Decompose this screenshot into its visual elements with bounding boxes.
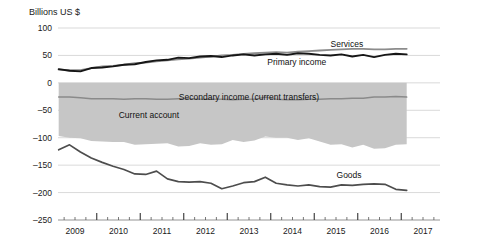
y-tick-label: –200 <box>33 188 52 198</box>
y-tick-label: –50 <box>38 105 52 115</box>
x-tick-label: 2011 <box>153 226 172 236</box>
y-axis-title: Billions US $ <box>29 7 80 17</box>
primary-income-line <box>59 53 407 71</box>
goods-line <box>59 145 407 191</box>
x-tick-label: 2017 <box>414 226 433 236</box>
y-axis-title-group: Billions US $ <box>29 7 80 17</box>
series-annotation-label: Secondary income (current transfers) <box>179 92 319 102</box>
y-tick-label: –250 <box>33 215 52 225</box>
x-tick-label: 2013 <box>240 226 259 236</box>
balance-of-payments-chart: Billions US $ 100500–50–100–150–200–250 … <box>0 0 479 252</box>
y-tick-label: 0 <box>47 78 52 88</box>
chart-container: Billions US $ 100500–50–100–150–200–250 … <box>0 0 479 252</box>
x-ticks-group <box>64 213 434 220</box>
x-tick-label: 2012 <box>196 226 215 236</box>
y-tick-labels-group: 100500–50–100–150–200–250 <box>33 23 52 225</box>
y-tick-label: –100 <box>33 133 52 143</box>
series-annotation-label: Services <box>331 39 364 49</box>
y-tick-label: 50 <box>43 50 53 60</box>
series-annotation-label: Goods <box>337 170 362 180</box>
y-tick-label: –150 <box>33 160 52 170</box>
x-tick-labels-group: 200920102011201220132014201520162017 <box>66 226 433 236</box>
x-tick-label: 2009 <box>66 226 85 236</box>
x-tick-label: 2015 <box>327 226 346 236</box>
series-annotation-label: Current account <box>119 110 180 120</box>
x-tick-label: 2014 <box>283 226 302 236</box>
y-tick-label: 100 <box>38 23 52 33</box>
x-tick-label: 2016 <box>370 226 389 236</box>
series-annotation-label: Primary income <box>267 57 326 67</box>
x-tick-label: 2010 <box>109 226 128 236</box>
